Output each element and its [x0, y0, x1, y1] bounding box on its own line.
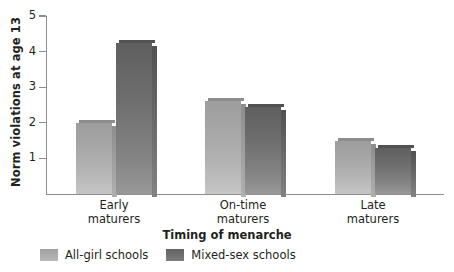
chart-legend: All-girl schoolsMixed-sex schools [40, 248, 296, 262]
y-tick-label: 5 [10, 10, 36, 22]
plot-area [46, 16, 444, 194]
bar-front-face [245, 107, 281, 194]
y-tick-mark [39, 51, 46, 52]
bar-side-face [152, 46, 157, 197]
bar-mixed-sex [116, 43, 152, 194]
bar-front-face [335, 141, 371, 194]
category-label-line: Early [49, 199, 179, 213]
bar-all-girl [205, 101, 241, 194]
x-axis-title: Timing of menarche [0, 228, 454, 242]
bar-side-face [281, 110, 286, 197]
y-tick-mark [39, 158, 46, 159]
dark-gray-swatch [166, 249, 184, 261]
bar-mixed-sex [245, 107, 281, 194]
category-label-line: maturers [308, 213, 438, 227]
category-label-line: maturers [49, 213, 179, 227]
bar-mixed-sex [375, 148, 411, 194]
legend-label: Mixed-sex schools [191, 248, 295, 262]
bar-front-face [205, 101, 241, 194]
bar-all-girl [76, 123, 112, 194]
y-axis-title: Norm violations at age 13 [9, 12, 23, 192]
y-tick-label: 1 [10, 152, 36, 164]
y-tick-label: 3 [10, 81, 36, 93]
bar-front-face [76, 123, 112, 194]
bar-group [205, 16, 281, 194]
category-label: On-timematurers [178, 199, 308, 226]
bar-front-face [375, 148, 411, 194]
category-label: Earlymaturers [49, 199, 179, 226]
bar-all-girl [335, 141, 371, 194]
bar-front-face [116, 43, 152, 194]
light-gray-swatch [40, 249, 58, 261]
bar-group [76, 16, 152, 194]
bar-group [335, 16, 411, 194]
y-tick-mark [39, 122, 46, 123]
category-label-line: Late [308, 199, 438, 213]
bar-chart: Norm violations at age 13 12345 Earlymat… [0, 0, 454, 272]
legend-label: All-girl schools [65, 248, 148, 262]
legend-item: Mixed-sex schools [166, 248, 295, 262]
category-label-line: On-time [178, 199, 308, 213]
y-tick-mark [39, 87, 46, 88]
bar-side-face [411, 151, 416, 197]
category-label: Latematurers [308, 199, 438, 226]
y-tick-label: 4 [10, 46, 36, 58]
y-tick-mark [39, 15, 46, 16]
category-label-line: maturers [178, 213, 308, 227]
legend-item: All-girl schools [40, 248, 148, 262]
y-tick-label: 2 [10, 117, 36, 129]
